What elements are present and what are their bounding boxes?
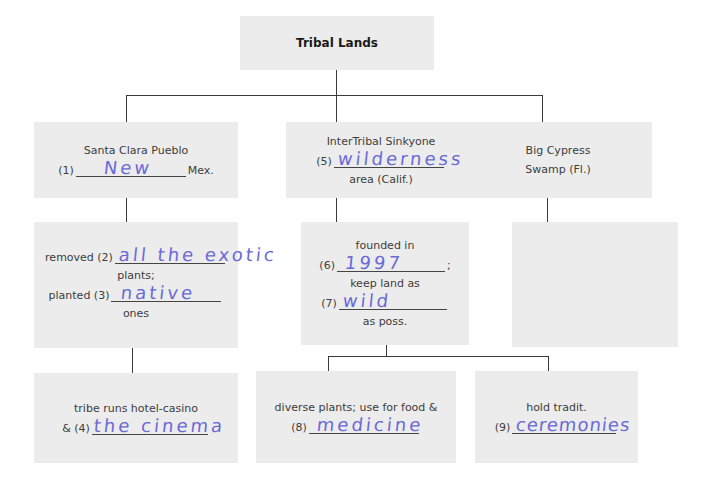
answer-blank-2[interactable]: all the exotic [115,249,225,264]
connector-split-right [548,356,549,371]
connector-split-left [328,356,329,371]
blank-prefix: (7) [321,297,337,310]
blank-suffix: Mex. [188,164,214,177]
blank-number: (5) [316,155,332,168]
blank-prefix: (8) [291,421,307,434]
node-sinkyone-detail: founded in (6) 1997 ; keep land as (7) w… [301,222,469,345]
handwritten-answer: ceremonies [515,414,632,435]
root-node: Tribal Lands [240,16,434,70]
connector-col1-middle-bottom [132,348,133,374]
handwritten-answer: wild [342,290,392,311]
connector-col2-top-middle [336,198,337,222]
node-intertribal-sinkyone: InterTribal Sinkyone (5) wilderness area… [286,122,476,198]
blank-suffix: ; [447,259,451,272]
blank-prefix: removed (2) [45,251,113,264]
text-line: founded in [356,239,415,252]
handwritten-answer: wilderness [337,148,465,169]
text-line: keep land as [350,277,420,290]
node-label: Santa Clara Pueblo [84,144,188,157]
node-santa-clara: Santa Clara Pueblo (1) New Mex. [34,122,238,198]
node-big-cypress-detail-empty [512,222,678,347]
handwritten-answer: the cinema [93,415,226,436]
connector-split-horizontal [328,356,549,357]
blank-number: (1) [58,164,74,177]
blank-prefix: planted (3) [49,289,110,302]
node-label: InterTribal Sinkyone [327,135,436,148]
node-diverse-plants: diverse plants; use for food & (8) medic… [256,371,456,463]
answer-blank-7[interactable]: wild [339,295,447,310]
text-line: as poss. [363,315,408,328]
root-title: Tribal Lands [296,36,378,50]
connector-right-down [542,95,543,122]
node-big-cypress: Big Cypress Swamp (Fl.) [464,122,652,198]
connector-left-down [126,95,127,122]
answer-blank-4[interactable]: the cinema [92,420,208,435]
answer-blank-9[interactable]: ceremonies [512,419,616,434]
connector-col1-top-middle [126,198,127,222]
node-traditions: hold tradit. (9) ceremonies [475,371,638,463]
handwritten-answer: 1997 [344,252,404,273]
node-suffix: area (Calif.) [349,173,413,186]
handwritten-answer: New [103,157,153,178]
blank-prefix: (6) [319,259,335,272]
text-line: diverse plants; use for food & [275,401,438,414]
answer-blank-8[interactable]: medicine [309,419,419,434]
handwritten-answer: medicine [316,414,425,435]
text-line: hold tradit. [526,401,587,414]
answer-blank-5[interactable]: wilderness [334,153,444,168]
blank-prefix: (9) [495,421,511,434]
text-line: ones [123,307,149,320]
text-line: tribe runs hotel-casino [74,402,198,415]
node-santa-clara-detail: removed (2) all the exotic plants; plant… [34,222,238,348]
handwritten-answer: all the exotic [118,244,278,265]
blank-prefix: & (4) [62,422,90,435]
node-hotel-casino: tribe runs hotel-casino & (4) the cinema [34,373,238,463]
answer-blank-1[interactable]: New [76,162,186,177]
connector-horizontal-top [126,95,543,96]
node-label-line2: Swamp (Fl.) [525,163,590,176]
handwritten-answer: native [120,282,196,303]
text-line: plants; [117,269,155,282]
connector-col3-top-middle [547,198,548,222]
answer-blank-6[interactable]: 1997 [337,257,445,272]
node-label-line1: Big Cypress [526,144,591,157]
answer-blank-3[interactable]: native [111,287,221,302]
connector-root-down [336,70,337,122]
